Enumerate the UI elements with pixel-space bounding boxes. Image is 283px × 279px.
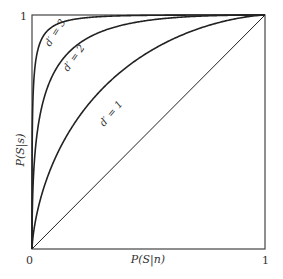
origin-tick: 0 bbox=[26, 254, 33, 267]
roc-curves bbox=[32, 15, 265, 249]
y-tick-max: 1 bbox=[20, 10, 27, 23]
roc-chart: 1 0 1 P(S|n) P(S|s) d′ = 3 d′ = 2 d′ = 1 bbox=[0, 0, 283, 279]
x-axis-label: P(S|n) bbox=[130, 253, 165, 267]
curve-label-d1: d′ = 1 bbox=[97, 98, 125, 128]
roc-curve-chance bbox=[32, 15, 265, 249]
y-axis-label: P(S|s) bbox=[14, 134, 28, 168]
x-tick-max: 1 bbox=[262, 254, 269, 267]
